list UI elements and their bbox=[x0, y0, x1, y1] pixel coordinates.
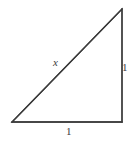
hypotenuse-label: x bbox=[53, 57, 58, 68]
vertical-leg-label: 1 bbox=[122, 62, 128, 73]
figure-canvas: x 1 1 bbox=[0, 0, 139, 144]
right-triangle-graphic bbox=[0, 0, 139, 144]
horizontal-leg-label: 1 bbox=[66, 126, 72, 137]
hypotenuse-segment bbox=[12, 9, 122, 122]
